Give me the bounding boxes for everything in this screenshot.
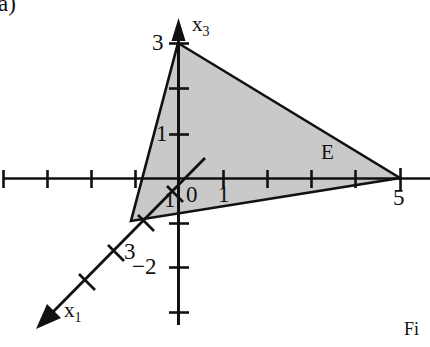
x3-tick-label-minus-2: −2	[132, 255, 156, 278]
x3-axis-label-sub: 3	[203, 24, 210, 39]
region-label-E: E	[321, 142, 334, 163]
coordinate-system-diagram	[0, 0, 430, 347]
x1-axis-label: x1	[64, 300, 82, 325]
x1-tick-label-3: 3	[124, 240, 136, 263]
origin-label: 0	[186, 183, 198, 206]
panel-label: a)	[0, 0, 16, 15]
x1-axis-label-base: x	[64, 298, 75, 322]
x1-axis-label-sub: 1	[75, 310, 82, 325]
x3-tick-label-1: 1	[156, 122, 168, 145]
x3-tick-label-3: 3	[152, 31, 164, 54]
x3-axis-label-base: x	[192, 12, 203, 36]
x2-tick-label-5: 5	[393, 186, 405, 209]
x3-axis-label: x3	[192, 14, 210, 39]
figure-caption-fragment: Fi	[404, 320, 419, 338]
x2-tick-label-1: 1	[218, 183, 230, 206]
x1-tick-label-1: 1	[164, 188, 176, 211]
